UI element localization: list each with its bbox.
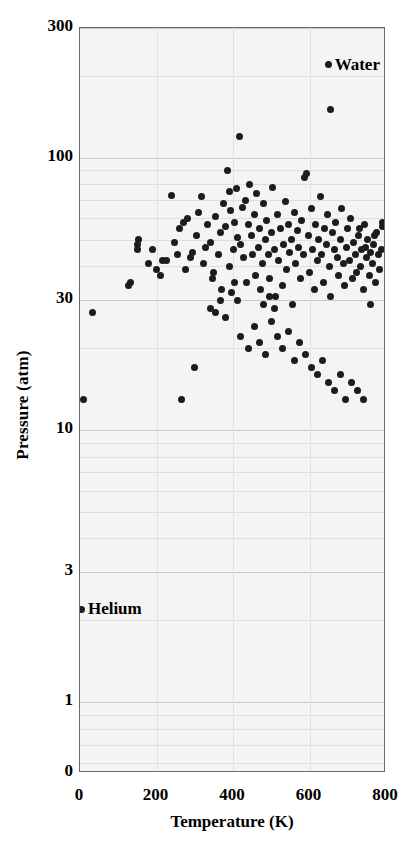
gridline-horizontal-minor <box>80 472 384 473</box>
gridline-horizontal-minor <box>80 538 384 539</box>
data-point <box>306 269 313 276</box>
gridline-horizontal-major <box>80 300 384 301</box>
data-point <box>349 275 356 282</box>
data-point <box>89 309 96 316</box>
data-point <box>312 221 319 228</box>
gridline-horizontal-minor <box>80 457 384 458</box>
data-point <box>352 251 359 258</box>
data-point <box>309 246 316 253</box>
data-point <box>134 246 141 253</box>
data-point <box>171 239 178 246</box>
data-point <box>315 236 322 243</box>
data-point <box>266 293 273 300</box>
gridline-horizontal-major <box>80 28 384 29</box>
scatter-plot-figure: Pressure (atm) 0131030100300 WaterHelium… <box>0 0 411 845</box>
y-tick-label: 30 <box>3 288 73 308</box>
gridline-vertical <box>310 28 311 771</box>
data-point <box>275 257 282 264</box>
gridline-horizontal-minor <box>80 512 384 513</box>
data-point <box>218 286 225 293</box>
annotation-label-water: Water <box>335 55 380 75</box>
data-point <box>260 200 267 207</box>
data-point <box>127 279 134 286</box>
data-point <box>356 225 363 232</box>
data-point <box>255 244 262 251</box>
data-point <box>296 339 303 346</box>
data-point <box>285 221 292 228</box>
data-point <box>80 396 87 403</box>
data-point <box>266 275 273 282</box>
gridline-horizontal-major <box>80 702 384 703</box>
data-point <box>353 269 360 276</box>
y-tick-label: 1 <box>3 690 73 710</box>
data-point <box>327 106 334 113</box>
gridline-horizontal-minor <box>80 729 384 730</box>
data-point <box>355 232 362 239</box>
data-point <box>269 184 276 191</box>
data-point <box>369 260 376 267</box>
data-point <box>159 257 166 264</box>
data-point <box>321 225 328 232</box>
y-tick-label: 3 <box>3 560 73 580</box>
data-point <box>240 254 247 261</box>
gridline-horizontal-minor <box>80 745 384 746</box>
data-point <box>256 339 263 346</box>
data-point <box>176 225 183 232</box>
data-point <box>274 333 281 340</box>
x-tick-label: 800 <box>350 785 411 805</box>
data-point <box>252 272 259 279</box>
data-point <box>231 279 238 286</box>
data-point <box>314 257 321 264</box>
data-point <box>289 301 296 308</box>
data-point <box>245 345 252 352</box>
data-point <box>220 200 227 207</box>
data-point <box>263 217 270 224</box>
data-point <box>370 241 377 248</box>
data-point <box>341 282 348 289</box>
x-tick-label: 600 <box>274 785 344 805</box>
data-point <box>338 205 345 212</box>
gridline-horizontal-minor <box>80 170 384 171</box>
data-point <box>344 225 351 232</box>
data-point <box>215 251 222 258</box>
data-point <box>362 244 369 251</box>
data-point <box>326 263 333 270</box>
data-point <box>245 221 252 228</box>
data-point <box>210 269 217 276</box>
data-point <box>332 219 339 226</box>
data-point <box>157 272 164 279</box>
data-point <box>325 379 332 386</box>
gridline-horizontal-minor <box>80 715 384 716</box>
data-point <box>193 232 200 239</box>
data-point <box>237 333 244 340</box>
data-point <box>331 246 338 253</box>
data-point <box>378 246 385 253</box>
data-point <box>298 217 305 224</box>
data-point <box>222 314 229 321</box>
data-point <box>335 272 342 279</box>
data-point <box>331 387 338 394</box>
data-point <box>376 266 383 273</box>
x-tick-label: 400 <box>197 785 267 805</box>
data-point <box>174 251 181 258</box>
data-point <box>294 227 301 234</box>
data-point <box>191 364 198 371</box>
data-point <box>292 260 299 267</box>
data-point <box>300 251 307 258</box>
data-point <box>246 181 253 188</box>
data-point <box>262 351 269 358</box>
data-point <box>200 260 207 267</box>
data-point <box>346 257 353 264</box>
data-point <box>325 61 332 68</box>
data-point <box>367 249 374 256</box>
data-point <box>283 266 290 273</box>
data-point <box>317 193 324 200</box>
data-point <box>282 198 289 205</box>
data-point <box>217 297 224 304</box>
data-point <box>249 251 256 258</box>
gridline-horizontal-minor <box>80 348 384 349</box>
data-point <box>279 282 286 289</box>
data-point <box>342 396 349 403</box>
data-point <box>79 606 85 613</box>
data-point <box>272 293 279 300</box>
